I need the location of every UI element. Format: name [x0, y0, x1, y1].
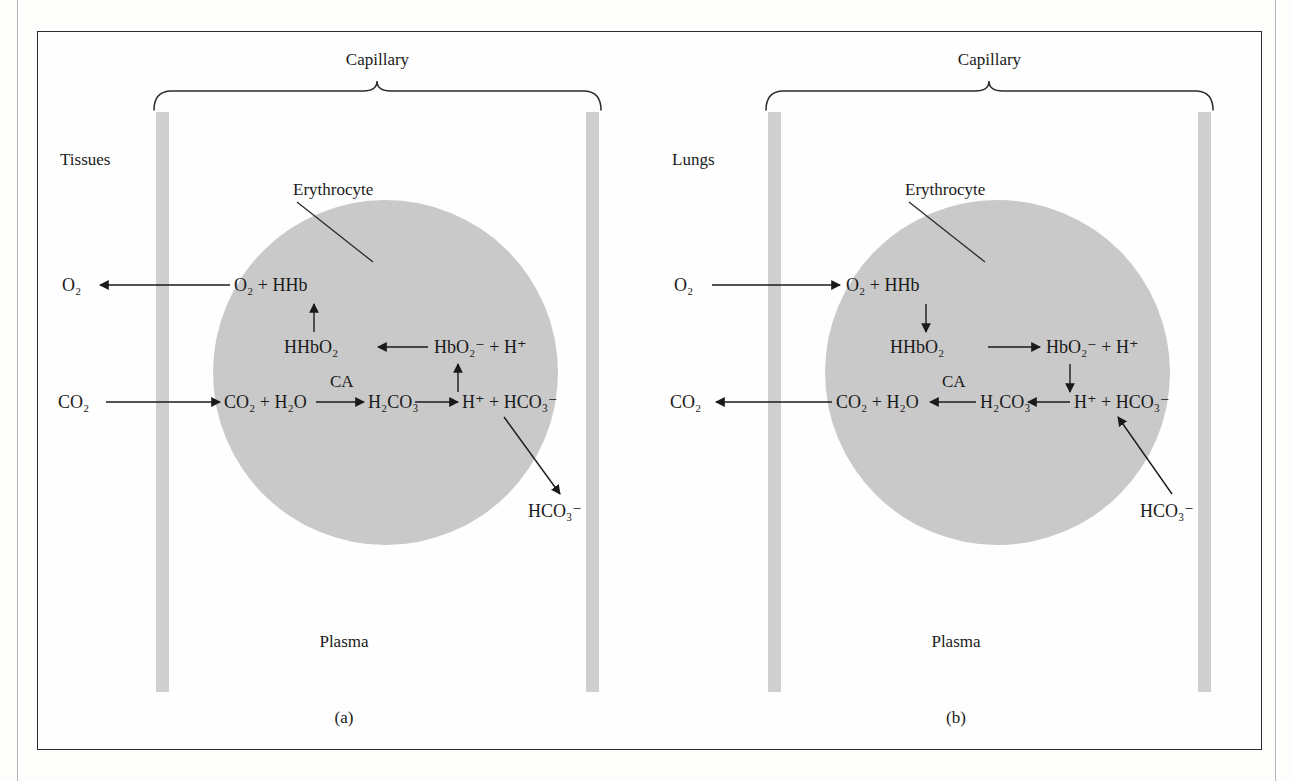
- region-label-tissues: Tissues: [60, 150, 110, 170]
- erythrocyte-leader-line-b: [905, 200, 995, 266]
- panel-a-tissues: Capillary Tissues Erythrocyte: [38, 32, 650, 751]
- page-margin-rule-left: [17, 0, 18, 781]
- panel-caption-b: (b): [650, 708, 1262, 728]
- catalyst-label-a: CA: [330, 372, 354, 392]
- bicarbonate-plasma-b: HCO₃⁻: [1140, 500, 1194, 522]
- capillary-brace-b: [762, 80, 1217, 112]
- reaction-bottom-left-a: CO₂ + H₂O: [224, 393, 307, 411]
- reaction-middle-left-a: HHbO₂: [284, 338, 338, 356]
- catalyst-label-b: CA: [942, 372, 966, 392]
- page-margin-rule-right: [1275, 0, 1276, 781]
- gas-label-co2-a: CO₂: [58, 392, 89, 413]
- figure-frame: Capillary Tissues Erythrocyte: [37, 31, 1262, 750]
- reaction-middle-right-a: HbO₂⁻ + H⁺: [434, 338, 526, 356]
- gas-label-o2-a: O₂: [62, 275, 81, 296]
- reaction-bottom-right-b: H⁺ + HCO₃⁻: [1074, 393, 1169, 411]
- reaction-bottom-left-b: CO₂ + H₂O: [836, 393, 919, 411]
- gas-label-co2-b: CO₂: [670, 392, 701, 413]
- panel-caption-a: (a): [38, 708, 650, 728]
- erythrocyte-cell-a: [213, 200, 558, 545]
- reaction-bottom-right-a: H⁺ + HCO₃⁻: [462, 393, 557, 411]
- reaction-bottom-middle-a: H₂CO₃: [368, 393, 419, 411]
- erythrocyte-label-b: Erythrocyte: [905, 180, 985, 200]
- capillary-wall-left-b: [768, 112, 781, 692]
- reaction-bottom-middle-b: H₂CO₃: [980, 393, 1031, 411]
- region-label-lungs: Lungs: [672, 150, 715, 170]
- plasma-label-b: Plasma: [650, 632, 1262, 652]
- panel-b-lungs: Capillary Lungs Erythrocyte: [650, 32, 1262, 751]
- reaction-middle-left-b: HHbO₂: [890, 338, 944, 356]
- gas-label-o2-b: O₂: [674, 275, 693, 296]
- capillary-brace-a: [150, 80, 605, 112]
- plasma-label-a: Plasma: [38, 632, 650, 652]
- erythrocyte-label-a: Erythrocyte: [293, 180, 373, 200]
- reaction-top-a: O₂ + HHb: [234, 276, 307, 294]
- capillary-label-b: Capillary: [762, 50, 1217, 70]
- capillary-wall-left-a: [156, 112, 169, 692]
- capillary-label-a: Capillary: [150, 50, 605, 70]
- capillary-wall-right-a: [586, 112, 599, 692]
- reaction-middle-right-b: HbO₂⁻ + H⁺: [1046, 338, 1138, 356]
- erythrocyte-leader-line-a: [293, 200, 383, 266]
- erythrocyte-cell-b: [825, 200, 1170, 545]
- capillary-wall-right-b: [1198, 112, 1211, 692]
- bicarbonate-plasma-a: HCO₃⁻: [528, 500, 582, 522]
- figure-page: Capillary Tissues Erythrocyte: [0, 0, 1293, 781]
- reaction-top-b: O₂ + HHb: [846, 276, 919, 294]
